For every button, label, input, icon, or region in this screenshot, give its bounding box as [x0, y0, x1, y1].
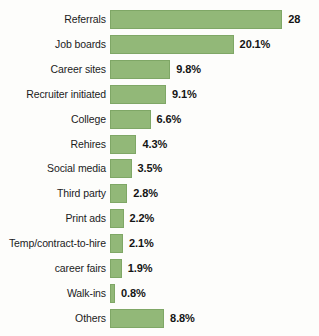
bar-track: 4.3% [110, 135, 319, 154]
bar-value-label: 0.8% [121, 284, 146, 303]
category-label: Rehires [0, 135, 110, 154]
bar-row: Walk-ins0.8% [0, 284, 319, 303]
bar-row: Recruiter initiated9.1% [0, 85, 319, 104]
bar-row: Print ads2.2% [0, 209, 319, 228]
bar [110, 10, 282, 29]
bar-row: Job boards20.1% [0, 35, 319, 54]
category-label: College [0, 110, 110, 129]
bar-row: College6.6% [0, 110, 319, 129]
category-label: Others [0, 309, 110, 328]
bar-value-label: 3.5% [138, 159, 163, 178]
bar-value-label: 9.8% [176, 60, 201, 79]
category-label: Recruiter initiated [0, 85, 110, 104]
bar [110, 85, 166, 104]
category-label: career fairs [0, 259, 110, 278]
bar-value-label: 1.9% [128, 259, 153, 278]
category-label: Temp/contract-to-hire [0, 234, 110, 253]
bar [110, 259, 122, 278]
bar-track: 20.1% [110, 35, 319, 54]
bar [110, 209, 124, 228]
bar-track: 8.8% [110, 309, 319, 328]
bar-value-label: 4.3% [142, 135, 167, 154]
bar-row: Referrals28 [0, 10, 319, 29]
bar-row: Social media3.5% [0, 159, 319, 178]
bar-value-label: 20.1% [240, 35, 271, 54]
category-label: Job boards [0, 35, 110, 54]
bar-value-label: 2.2% [130, 209, 155, 228]
bar-value-label: 9.1% [172, 85, 197, 104]
bar [110, 35, 234, 54]
bar-value-label: 2.1% [129, 234, 154, 253]
bar-track: 1.9% [110, 259, 319, 278]
bar-track: 2.8% [110, 184, 319, 203]
category-label: Referrals [0, 10, 110, 29]
bar-track: 2.2% [110, 209, 319, 228]
bar-row: Third party2.8% [0, 184, 319, 203]
bar [110, 284, 115, 303]
bar [110, 159, 132, 178]
bar-row: Others8.8% [0, 309, 319, 328]
category-label: Social media [0, 159, 110, 178]
category-label: Career sites [0, 60, 110, 79]
category-label: Print ads [0, 209, 110, 228]
category-label: Walk-ins [0, 284, 110, 303]
bar-chart: Referrals28Job boards20.1%Career sites9.… [0, 0, 319, 336]
bar-row: Career sites9.8% [0, 60, 319, 79]
bar [110, 135, 136, 154]
bar-track: 2.1% [110, 234, 319, 253]
bar-track: 9.1% [110, 85, 319, 104]
bar [110, 110, 151, 129]
bar-track: 6.6% [110, 110, 319, 129]
bar-value-label: 6.6% [157, 110, 182, 129]
bar-value-label: 8.8% [170, 309, 195, 328]
bar [110, 184, 127, 203]
bar-row: Temp/contract-to-hire2.1% [0, 234, 319, 253]
bar-track: 0.8% [110, 284, 319, 303]
bar [110, 309, 164, 328]
bar-row: career fairs1.9% [0, 259, 319, 278]
bar-track: 3.5% [110, 159, 319, 178]
bar-value-label: 2.8% [133, 184, 158, 203]
bar-row: Rehires4.3% [0, 135, 319, 154]
category-label: Third party [0, 184, 110, 203]
bar-value-label: 28 [288, 10, 300, 29]
bar [110, 234, 123, 253]
bar [110, 60, 170, 79]
bar-track: 9.8% [110, 60, 319, 79]
bar-track: 28 [110, 10, 319, 29]
